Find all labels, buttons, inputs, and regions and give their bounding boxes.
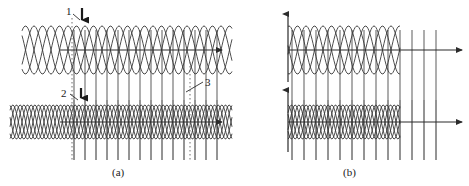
panel-caption-b: (b) [343,166,356,178]
panel-caption-a: (a) [112,166,124,178]
callout-label-1: 1 [66,5,72,17]
figure-container: (a) (b) 1 2 3 [0,0,469,186]
diagram-canvas [0,0,469,186]
callout-leader-line [73,14,80,20]
callout-label-3: 3 [205,76,211,88]
axes-layer [60,14,462,152]
callout-label-2: 2 [61,87,67,99]
